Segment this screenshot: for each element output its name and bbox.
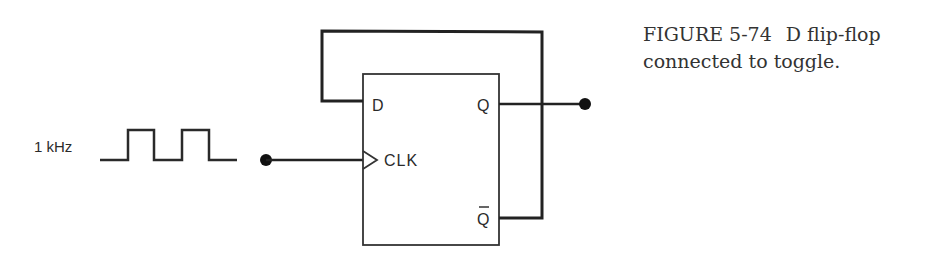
pin-label-q-bar: Q [477,211,489,228]
pin-label-q: Q [477,97,489,114]
square-wave-icon [100,130,237,160]
q-output-terminal [579,98,591,110]
pin-label-d: D [372,97,384,114]
pin-label-clk: CLK [384,152,418,169]
clock-frequency-label: 1 kHz [34,138,72,155]
clock-edge-triangle-icon [363,151,377,169]
feedback-wire [322,31,542,218]
figure-number: FIGURE 5-74 [643,23,772,45]
figure-caption: FIGURE 5-74D flip-flop connected to togg… [643,21,933,75]
